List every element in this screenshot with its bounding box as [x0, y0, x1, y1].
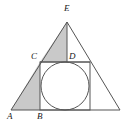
vertex-label-C: C: [31, 52, 37, 61]
vertex-label-E: E: [64, 4, 70, 13]
geometry-canvas: [0, 0, 126, 128]
vertex-label-A: A: [7, 112, 13, 121]
vertex-label-D: D: [69, 52, 76, 61]
geometry-figure: E C D A B: [0, 0, 126, 128]
vertex-label-B: B: [37, 112, 43, 121]
inscribed-circle: [41, 62, 89, 110]
